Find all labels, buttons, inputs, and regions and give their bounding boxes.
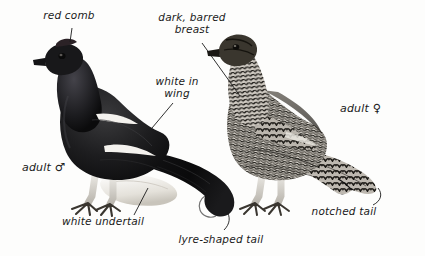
male-legs <box>72 176 120 216</box>
illustration-plate: red comb dark, barred breast white in wi… <box>0 0 425 256</box>
female-symbol-icon: ♀ <box>373 101 382 115</box>
label-adult-female: adult ♀ <box>340 103 402 115</box>
male-symbol-icon: ♂ <box>55 160 66 174</box>
label-red-comb: red comb <box>36 10 102 22</box>
female-eye <box>233 44 240 50</box>
label-white-in-wing: white in wing <box>146 76 208 99</box>
label-white-undertail: white undertail <box>48 216 158 228</box>
male-bill <box>33 58 46 66</box>
label-lyre-shaped-tail: lyre-shaped tail <box>166 234 276 246</box>
label-adult-male: adult ♂ <box>22 162 82 174</box>
adult-female-text: adult <box>340 102 373 115</box>
female-legs <box>240 176 289 215</box>
adult-male-text: adult <box>22 161 55 174</box>
female-grouse-figure <box>207 35 376 215</box>
leader-white-in-wing <box>152 103 173 128</box>
label-notched-tail: notched tail <box>308 206 380 218</box>
label-dark-barred-breast: dark, barred breast <box>150 12 234 35</box>
male-grouse-figure <box>33 39 234 217</box>
male-eye <box>58 53 65 59</box>
